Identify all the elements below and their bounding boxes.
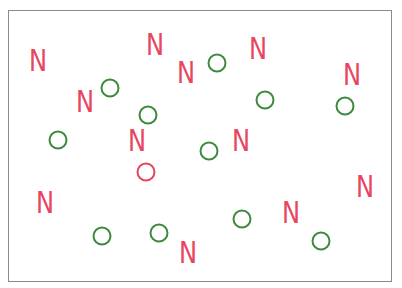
target-red-ring-icon [137,163,156,182]
red-letter-n: N [146,29,164,60]
green-ring-icon [233,210,252,229]
red-letter-n: N [36,187,54,218]
red-letter-n: N [177,57,195,88]
red-letter-n: N [76,86,94,117]
red-letter-n: N [249,33,267,64]
red-letter-n: N [282,197,300,228]
green-ring-icon [312,232,331,251]
green-ring-icon [200,142,219,161]
red-letter-n: N [128,125,146,156]
green-ring-icon [256,91,275,110]
red-letter-n: N [29,45,47,76]
red-letter-n: N [356,171,374,202]
green-ring-icon [336,97,355,116]
green-ring-icon [93,227,112,246]
green-ring-icon [208,54,227,73]
red-letter-n: N [343,59,361,90]
green-ring-icon [150,224,169,243]
red-letter-n: N [232,125,250,156]
green-ring-icon [49,131,68,150]
red-letter-n: N [179,237,197,268]
green-ring-icon [101,79,120,98]
